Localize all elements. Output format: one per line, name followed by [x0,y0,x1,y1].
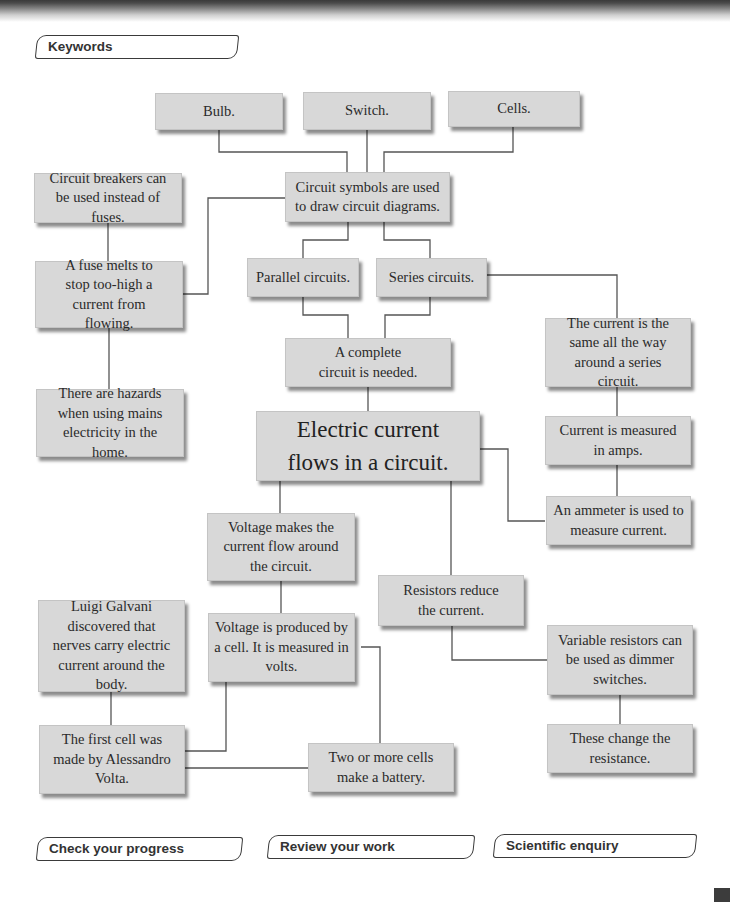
node-text: Current is measured in amps. [550,421,686,460]
node-text: Voltage makes the current flow around th… [212,518,350,577]
node-cells: Cells. [448,91,580,127]
node-text: Circuit breakers can be used instead of … [39,169,177,228]
node-galvani: Luigi Galvani discovered that nerves car… [38,600,185,692]
node-text: Luigi Galvani discovered that nerves car… [43,597,180,695]
node-text: There are hazards when using mains elect… [41,384,179,462]
node-series-circuits: Series circuits. [376,258,487,297]
node-text: Variable resistors can be used as dimmer… [552,631,688,690]
node-variable-resistors: Variable resistors can be used as dimmer… [547,625,693,695]
node-text: The current is the same all the way arou… [550,314,686,392]
node-voltage-cell: Voltage is produced by a cell. It is mea… [208,613,355,682]
node-series-current: The current is the same all the way arou… [545,318,691,387]
tab-scientific-enquiry[interactable]: Scientific enquiry [493,834,698,858]
tab-check-your-progress[interactable]: Check your progress [36,837,244,861]
node-volta: The first cell was made by Alessandro Vo… [39,725,185,794]
node-text: The first cell was made by Alessandro Vo… [44,730,180,789]
tab-label: Check your progress [38,838,241,860]
node-battery: Two or more cells make a battery. [308,743,454,792]
node-switch: Switch. [303,92,431,130]
node-text: Two or more cells make a battery. [313,748,449,787]
tab-label: Scientific enquiry [495,835,695,857]
node-text: Bulb. [203,102,235,122]
node-text: Resistors reduce the current. [383,581,519,620]
node-resistance: These change the resistance. [547,724,693,773]
node-resistors: Resistors reduce the current. [378,575,524,626]
node-central-electric-current: Electric current flows in a circuit. [256,411,480,481]
node-measured-in-amps: Current is measured in amps. [545,416,691,465]
node-hazards: There are hazards when using mains elect… [36,389,184,457]
node-text: Voltage is produced by a cell. It is mea… [213,618,350,677]
node-voltage-flow: Voltage makes the current flow around th… [207,513,355,581]
central-text: Electric current flows in a circuit. [261,413,475,479]
page-corner-marker [714,888,730,902]
node-ammeter: An ammeter is used to measure current. [546,496,691,545]
node-parallel-circuits: Parallel circuits. [247,258,359,297]
node-text: Cells. [497,99,530,119]
node-circuit-symbols: Circuit symbols are used to draw circuit… [285,172,450,222]
node-fuse: A fuse melts to stop too-high a current … [35,261,183,328]
node-bulb: Bulb. [155,93,283,130]
node-text: These change the resistance. [552,729,688,768]
node-text: A fuse melts to stop too-high a current … [40,256,178,334]
node-text: A complete circuit is needed. [290,343,446,382]
node-text: Circuit symbols are used to draw circuit… [290,178,445,217]
tab-review-your-work[interactable]: Review your work [267,835,476,859]
node-text: An ammeter is used to measure current. [551,501,686,540]
node-complete-circuit: A complete circuit is needed. [285,338,451,387]
node-text: Parallel circuits. [256,268,350,288]
tab-label: Review your work [269,836,473,858]
node-text: Switch. [345,101,389,121]
node-text: Series circuits. [389,268,474,288]
node-circuit-breakers: Circuit breakers can be used instead of … [34,173,182,223]
